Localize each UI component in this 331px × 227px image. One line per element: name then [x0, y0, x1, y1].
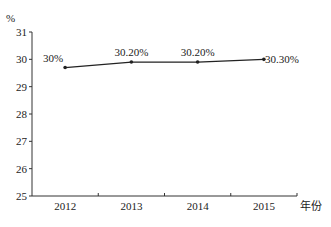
y-tick-label: 25	[16, 190, 28, 202]
data-point	[63, 66, 67, 70]
y-tick-label: 27	[16, 135, 28, 147]
y-tick-label: 31	[16, 26, 27, 38]
axes	[32, 32, 297, 196]
data-label: 30%	[43, 52, 63, 64]
series-line	[65, 59, 264, 67]
y-tick-label: 30	[16, 53, 28, 65]
y-axis-unit: %	[6, 12, 15, 24]
y-tick-label: 26	[16, 163, 28, 175]
y-tick-label: 29	[16, 81, 28, 93]
data-label: 30.20%	[181, 46, 215, 58]
data-label: 30.20%	[114, 46, 148, 58]
y-tick-label: 28	[16, 108, 28, 120]
data-label: 30.30%	[265, 53, 299, 65]
x-tick-label: 2012	[54, 200, 76, 212]
data-series: 30%30.20%30.20%30.30%	[43, 46, 299, 69]
data-point	[196, 60, 200, 64]
y-ticks: 25262728293031	[16, 26, 32, 202]
data-point	[130, 60, 134, 64]
x-tick-label: 2015	[253, 200, 276, 212]
x-axis-title: 年份	[300, 199, 322, 212]
line-chart: 25262728293031 2012201320142015 % 年份 30%…	[0, 0, 331, 227]
x-tick-label: 2014	[187, 200, 210, 212]
x-tick-label: 2013	[120, 200, 143, 212]
